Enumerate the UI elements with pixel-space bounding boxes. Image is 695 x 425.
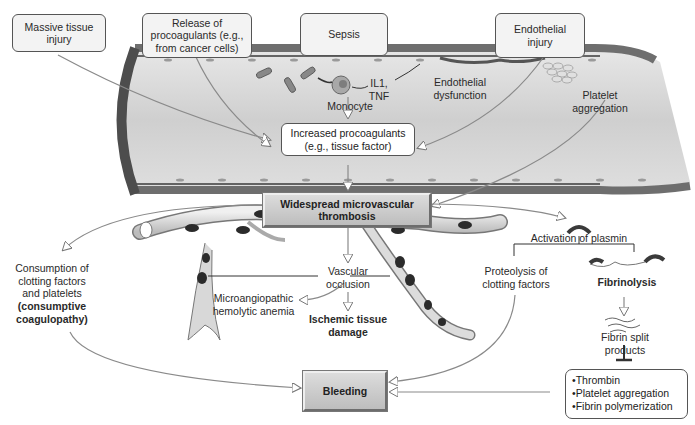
vascular-occlusion-label: Vascular occlusion bbox=[318, 265, 378, 290]
widespread-thrombosis-box: Widespread microvascular thrombosis bbox=[263, 193, 431, 227]
cytokines-label: IL1, TNF bbox=[362, 77, 396, 102]
inhibited-item-platelet-aggregation: Platelet aggregation bbox=[572, 387, 681, 400]
bleeding-box: Bleeding bbox=[303, 371, 387, 411]
ischemic-damage-label: Ischemic tissue damage bbox=[300, 313, 396, 338]
microangiopathic-anemia-label: Microangiopathic hemolytic anemia bbox=[206, 292, 301, 317]
trigger-sepsis: Sepsis bbox=[300, 13, 388, 56]
platelet-aggregation-label: Platelet aggregation bbox=[560, 89, 640, 114]
inhibited-processes-box: Thrombin Platelet aggregation Fibrin pol… bbox=[565, 369, 688, 419]
fibrinolysis-label: Fibrinolysis bbox=[592, 276, 662, 289]
fibrin-split-products-label: Fibrin split products bbox=[596, 331, 654, 356]
trigger-massive-tissue-injury: Massive tissue injury bbox=[12, 14, 106, 52]
proteolysis-label: Proteolysis of clotting factors bbox=[472, 265, 560, 290]
fibrin-fragments-icon bbox=[605, 318, 640, 332]
inhibited-item-thrombin: Thrombin bbox=[572, 374, 681, 387]
trigger-endothelial-injury: Endothelial injury bbox=[495, 13, 585, 58]
activation-plasmin-label: Activation of plasmin bbox=[522, 232, 636, 245]
increased-procoagulants-box: Increased procoagulants (e.g., tissue fa… bbox=[281, 123, 415, 156]
consumption-label: Consumption of clotting factors and plat… bbox=[4, 262, 100, 300]
inhibited-item-fibrin-polymerization: Fibrin polymerization bbox=[572, 400, 681, 413]
endothelial-dysfunction-label: Endothelial dysfunction bbox=[420, 76, 500, 101]
trigger-release-procoagulants: Release of procoagulants (e.g., from can… bbox=[142, 13, 252, 58]
consumptive-coagulopathy-label: (consumptive coagulopathy) bbox=[4, 300, 100, 325]
